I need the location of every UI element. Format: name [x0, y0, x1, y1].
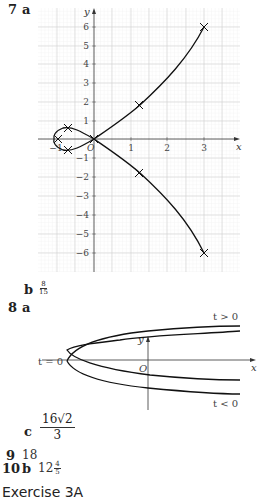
svg-text:5: 5	[83, 41, 89, 51]
svg-text:2: 2	[83, 97, 89, 107]
question-8-part-c: c	[24, 424, 32, 439]
svg-text:−4: −4	[76, 210, 90, 220]
answer-10b: 12 4 5	[38, 461, 61, 476]
answer-8c-denominator: 3	[53, 428, 61, 443]
svg-text:−2: −2	[76, 172, 89, 182]
label-t-negative: t < 0	[213, 398, 238, 409]
svg-text:6: 6	[83, 22, 89, 32]
svg-text:2: 2	[164, 143, 170, 153]
svg-text:x: x	[236, 141, 242, 152]
svg-text:−5: −5	[76, 229, 90, 239]
question-10-number: 10	[2, 461, 20, 476]
grid	[38, 8, 240, 272]
svg-text:1: 1	[83, 116, 89, 126]
svg-text:−1: −1	[49, 143, 62, 153]
svg-text:3: 3	[83, 78, 89, 88]
answer-7b: 8 15	[39, 281, 48, 296]
svg-text:y: y	[83, 6, 90, 17]
answer-10b-fraction: 4 5	[54, 461, 60, 476]
answer-8c: 16√2 3	[40, 412, 75, 443]
svg-text:1: 1	[128, 143, 134, 153]
section-heading: Exercise 3A	[2, 484, 83, 500]
svg-text:−1: −1	[76, 153, 89, 163]
svg-text:O: O	[139, 363, 147, 374]
question-7-part-b: b	[24, 282, 33, 297]
svg-text:4: 4	[83, 59, 89, 69]
answer-10b-whole: 12	[38, 461, 53, 475]
svg-text:O: O	[87, 143, 95, 153]
question-10-part-b: b	[22, 461, 31, 476]
graph-8a: x y O t > 0 t = 0 t < 0	[0, 300, 260, 415]
answer-7b-denominator: 15	[39, 289, 48, 296]
svg-text:y: y	[137, 334, 144, 345]
answer-10b-denominator: 5	[55, 469, 59, 476]
svg-text:−3: −3	[76, 191, 90, 201]
graph-7a: x y 654 321 −1−2−3 −4−5−6 −11 23 O	[0, 0, 260, 280]
svg-text:3: 3	[201, 143, 207, 153]
svg-text:−6: −6	[76, 248, 90, 258]
svg-text:x: x	[251, 362, 257, 373]
label-t-positive: t > 0	[213, 311, 238, 322]
answer-8c-numerator: 16√2	[40, 412, 75, 428]
label-t-zero: t = 0	[38, 356, 63, 367]
answer-9: 18	[22, 448, 37, 462]
